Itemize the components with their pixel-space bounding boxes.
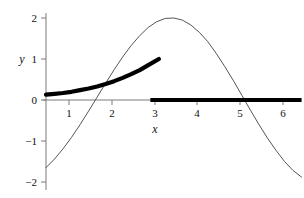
y-tick-label-neg1: −1 (25, 135, 37, 147)
x-tick-label-1: 1 (66, 107, 72, 119)
chart-figure: 2 1 0 −1 −2 1 2 3 4 5 6 y x (0, 0, 304, 198)
y-tick-label-neg2: −2 (25, 176, 37, 188)
x-tick-label-2: 2 (109, 107, 115, 119)
y-tick-label-2: 2 (32, 12, 38, 24)
x-tick-label-6: 6 (280, 107, 286, 119)
x-tick-label-5: 5 (237, 107, 243, 119)
x-tick-label-3: 3 (152, 107, 158, 119)
x-axis-label: x (151, 122, 158, 136)
y-axis-label: y (18, 52, 25, 66)
y-tick-label-1: 1 (32, 53, 38, 65)
y-tick-label-0: 0 (32, 94, 38, 106)
x-tick-label-4: 4 (194, 107, 200, 119)
